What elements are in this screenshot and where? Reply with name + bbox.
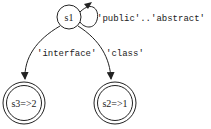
state-diagram: 'public'..'abstract' 'interface' 'class'… <box>0 0 211 129</box>
state-label: s3=>2 <box>11 98 36 109</box>
edge-label-self-loop: 'public'..'abstract' <box>97 14 205 24</box>
state-node-s1[interactable]: s1 <box>57 5 81 29</box>
state-node-s3[interactable]: s3=>2 <box>3 82 45 124</box>
state-label: s2=>1 <box>102 98 127 109</box>
state-label: s1 <box>65 12 74 23</box>
edge-label-interface: 'interface' <box>37 49 96 59</box>
edge-s1-self-loop <box>80 7 98 27</box>
state-node-s2[interactable]: s2=>1 <box>94 82 136 124</box>
edge-label-class: 'class' <box>106 49 144 59</box>
